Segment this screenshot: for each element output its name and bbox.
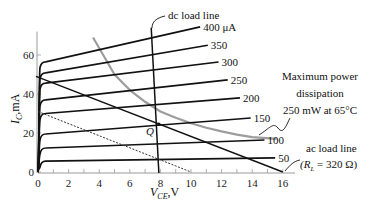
ib-curve: [38, 45, 208, 172]
ac-load-line-rl: (RL = 320 Ω): [300, 158, 357, 173]
dashed-load-line: [38, 112, 191, 172]
y-tick-label: 0: [29, 166, 35, 178]
ib-curve: [38, 158, 275, 172]
annotations: dc load line Maximum power dissipation 2…: [8, 9, 358, 201]
ib-curve-label: 250: [231, 74, 248, 86]
power-label-line1: Maximum power: [282, 70, 358, 82]
x-tick-label: 14: [247, 177, 259, 189]
ib-curve-label: 300: [222, 56, 239, 68]
transistor-characteristic-chart: 02468101214160204060 400 μA3503002502001…: [0, 0, 380, 211]
x-tick-label: 8: [158, 177, 164, 189]
ib-curve-label: 150: [254, 112, 271, 124]
ib-curve: [38, 140, 264, 172]
power-label-line3: 250 mW at 65°C: [283, 104, 357, 116]
y-tick-label: 20: [23, 127, 35, 139]
ib-curve: [38, 27, 200, 172]
y-tick-label: 60: [23, 49, 35, 61]
ib-curve-label: 200: [243, 92, 260, 104]
dc-load-line-leader: [152, 16, 165, 28]
q-point-marker: [157, 122, 160, 125]
x-tick-label: 12: [216, 177, 227, 189]
x-tick-label: 10: [186, 177, 198, 189]
ib-curve-label: 50: [278, 152, 290, 164]
ib-curve-label: 350: [211, 39, 228, 51]
x-tick-label: 16: [277, 177, 289, 189]
x-tick-label: 4: [96, 177, 102, 189]
x-tick-label: 0: [35, 177, 41, 189]
dc-load-line-label: dc load line: [168, 9, 219, 21]
power-label-line2: dissipation: [296, 87, 344, 99]
y-axis-title: IC,mA: [8, 93, 24, 125]
dc-load-line: [151, 28, 159, 173]
x-tick-label: 6: [127, 177, 133, 189]
collector-curves: 400 μA35030025020015010050: [38, 21, 290, 172]
x-axis-title: VCE,V: [150, 185, 180, 201]
ac-load-line-label: ac load line: [306, 142, 357, 154]
q-point-label: Q: [146, 125, 154, 137]
ib-curve: [38, 62, 219, 172]
y-tick-label: 40: [23, 88, 35, 100]
ib-curve-label: 100: [267, 134, 284, 146]
y-axis-title-group: IC,mA: [8, 93, 24, 125]
ib-curve-label: 400 μA: [203, 21, 236, 33]
x-tick-label: 2: [66, 177, 72, 189]
